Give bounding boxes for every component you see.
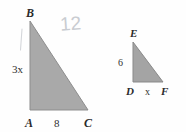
side-label-ab-3x: 3x	[12, 64, 23, 75]
side-label-df-x: x	[145, 87, 150, 97]
vertex-label-a: A	[25, 117, 33, 129]
vertex-label-f: F	[161, 86, 168, 97]
pencil-tick-mark	[21, 29, 23, 50]
geometry-figure: B A C 3x 8 E D F 6 x 12	[0, 0, 186, 132]
triangle-def-shape	[133, 42, 163, 82]
side-label-de-6: 6	[118, 58, 123, 68]
triangle-abc-shape	[30, 21, 88, 110]
vertex-label-e: E	[130, 28, 137, 39]
vertex-label-d: D	[126, 86, 134, 97]
handwritten-annotation: 12	[59, 13, 81, 33]
side-label-ac-8: 8	[54, 118, 60, 129]
vertex-label-b: B	[26, 7, 34, 19]
vertex-label-c: C	[84, 117, 92, 129]
